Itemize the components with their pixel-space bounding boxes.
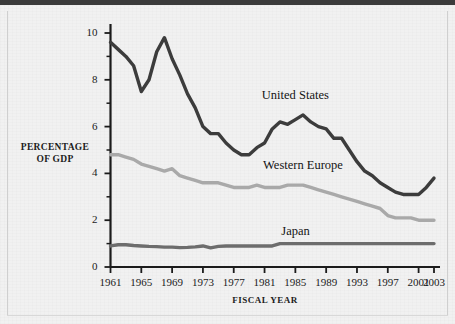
y-axis-title-line2: OF GDP — [12, 153, 98, 165]
y-axis-title: PERCENTAGE OF GDP — [12, 141, 98, 165]
series-label-united-states: United States — [262, 88, 329, 103]
y-tick-label: 8 — [78, 73, 98, 85]
y-tick-label: 6 — [78, 120, 98, 132]
x-axis-title: FISCAL YEAR — [205, 295, 325, 305]
series-line-japan — [111, 244, 435, 248]
chart-page: PERCENTAGE OF GDP FISCAL YEAR 0246810196… — [0, 0, 455, 324]
series-label-japan: Japan — [281, 224, 309, 239]
y-tick-label: 2 — [78, 213, 98, 225]
y-tick-label: 10 — [78, 26, 98, 38]
series-group — [111, 38, 435, 248]
y-tick-label: 4 — [78, 166, 98, 178]
series-label-western-europe: Western Europe — [263, 158, 343, 173]
y-axis-title-line1: PERCENTAGE — [12, 141, 98, 153]
x-tick-label: 2003 — [414, 276, 454, 288]
y-tick-label: 0 — [78, 260, 98, 272]
